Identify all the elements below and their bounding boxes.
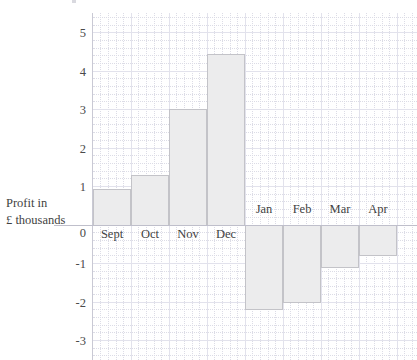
category-label-nov: Nov (169, 228, 207, 241)
y-tick-neg2: -2 (56, 297, 86, 310)
y-axis-title: Profit in £ thousands (6, 195, 90, 229)
y-tick-2: 2 (56, 143, 86, 156)
gridline-major-horizontal (93, 148, 417, 149)
gridline-minor-horizontal (93, 78, 417, 80)
gridline-minor-horizontal (93, 317, 417, 319)
gridline-minor-horizontal (93, 17, 417, 19)
y-tick-5: 5 (56, 27, 86, 40)
gridline-minor-horizontal (93, 94, 417, 96)
bar-chart: 5 4 3 2 1 0 -1 -2 -3 Profit in £ thousan… (0, 0, 417, 360)
category-label-apr: Apr (359, 203, 397, 216)
category-label-jan: Jan (245, 203, 283, 216)
gridline-major-horizontal (93, 71, 417, 72)
bar-mar[interactable] (321, 225, 359, 268)
y-tick-1: 1 (56, 181, 86, 194)
gridline-minor-horizontal (93, 325, 417, 327)
gridline-major-horizontal (93, 340, 417, 341)
gridline-minor-horizontal (93, 63, 417, 65)
y-tick-4: 4 (56, 66, 86, 79)
bar-apr[interactable] (359, 225, 397, 256)
gridline-minor-horizontal (93, 155, 417, 157)
gridline-minor-horizontal (93, 163, 417, 165)
gridline-minor-horizontal (93, 86, 417, 88)
y-tick-neg1: -1 (56, 258, 86, 271)
y-axis-line (92, 13, 93, 360)
gridline-minor-horizontal (93, 332, 417, 334)
category-label-oct: Oct (131, 228, 169, 241)
gridline-minor-horizontal (93, 355, 417, 357)
category-label-mar: Mar (321, 203, 359, 216)
category-label-feb: Feb (283, 203, 321, 216)
gridline-minor-horizontal (93, 55, 417, 57)
gridline-minor-horizontal (93, 48, 417, 50)
gridline-major-horizontal (93, 109, 417, 110)
gridline-minor-horizontal (93, 348, 417, 350)
gridline-minor-horizontal (93, 117, 417, 119)
category-label-sept: Sept (93, 228, 131, 241)
bar-sept[interactable] (93, 189, 131, 226)
gridline-minor-horizontal (93, 132, 417, 134)
x-axis-zero-line (54, 225, 417, 226)
plot-area (93, 13, 417, 360)
bar-jan[interactable] (245, 225, 283, 310)
gridline-minor-horizontal (93, 124, 417, 126)
gridline-minor-horizontal (93, 101, 417, 103)
bar-oct[interactable] (131, 175, 169, 226)
category-label-dec: Dec (207, 228, 245, 241)
y-tick-0: 0 (56, 227, 86, 240)
bar-nov[interactable] (169, 109, 207, 226)
y-axis-title-line2: £ thousands (6, 212, 90, 229)
bar-feb[interactable] (283, 225, 321, 303)
y-tick-neg3: -3 (56, 335, 86, 348)
gridline-minor-horizontal (93, 25, 417, 27)
y-axis-title-line1: Profit in (6, 195, 90, 212)
bar-dec[interactable] (207, 54, 245, 226)
gridline-minor-horizontal (93, 140, 417, 142)
gridline-major-horizontal (93, 32, 417, 33)
gridline-minor-horizontal (93, 40, 417, 42)
gridline-minor-horizontal (93, 171, 417, 173)
y-axis-tick-labels: 5 4 3 2 1 0 -1 -2 -3 (52, 0, 86, 360)
y-tick-3: 3 (56, 104, 86, 117)
